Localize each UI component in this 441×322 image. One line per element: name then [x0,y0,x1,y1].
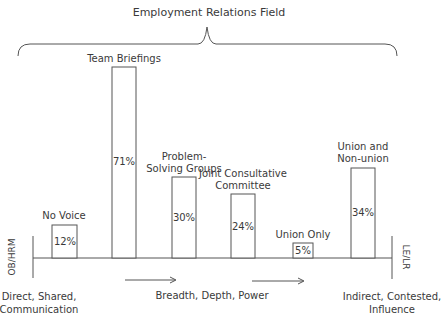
bar-value: 5% [295,245,311,257]
left-pole-label: Direct, Shared, Communication [0,290,78,316]
right-axis-label: LE/LR [401,244,411,269]
bar-value: 12% [54,236,76,248]
bar-value: 34% [352,207,374,219]
field-brace [18,27,397,56]
bar-label: Union and Non-union [337,141,388,165]
bar-label: Joint Consultative Committee [199,168,287,192]
bar-value: 30% [173,212,195,224]
right-pole-label: Indirect, Contested, Influence [343,290,441,316]
bar-label: No Voice [42,210,85,222]
left-axis-label: OB/HRM [7,238,17,275]
x-axis-label: Breadth, Depth, Power [155,290,268,301]
chart-title: Employment Relations Field [133,6,286,19]
bar-label: Team Briefings [87,53,161,65]
bar-value: 71% [113,156,135,168]
arrow-right-icon [252,278,304,284]
bar-label: Union Only [276,229,331,241]
arrow-right-icon [125,277,176,283]
bar-value: 24% [232,221,254,233]
